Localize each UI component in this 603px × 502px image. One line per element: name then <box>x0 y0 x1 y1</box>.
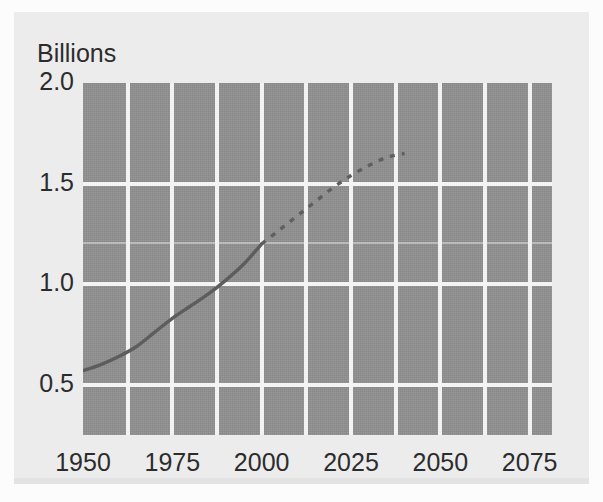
x-axis-tick-label: 2025 <box>323 448 379 477</box>
y-axis-tick-label: 2.0 <box>10 67 74 96</box>
plot-area <box>83 83 552 435</box>
series-line-historical <box>83 244 262 371</box>
y-axis-unit-label: Billions <box>37 39 116 68</box>
x-axis-tick-label: 2050 <box>413 448 469 477</box>
x-axis-tick-label: 2000 <box>234 448 290 477</box>
y-axis-tick-label: 1.0 <box>10 268 74 297</box>
y-axis-tick-label: 0.5 <box>10 369 74 398</box>
y-axis-tick-label: 1.5 <box>10 168 74 197</box>
x-axis-tick-label: 2075 <box>502 448 558 477</box>
series-line-projected <box>262 153 405 244</box>
series-layer <box>83 83 552 435</box>
x-axis-tick-label: 1975 <box>145 448 201 477</box>
x-axis-tick-label: 1950 <box>55 448 111 477</box>
chart-figure: Billions 2.01.51.00.5 195019752000202520… <box>0 0 603 502</box>
